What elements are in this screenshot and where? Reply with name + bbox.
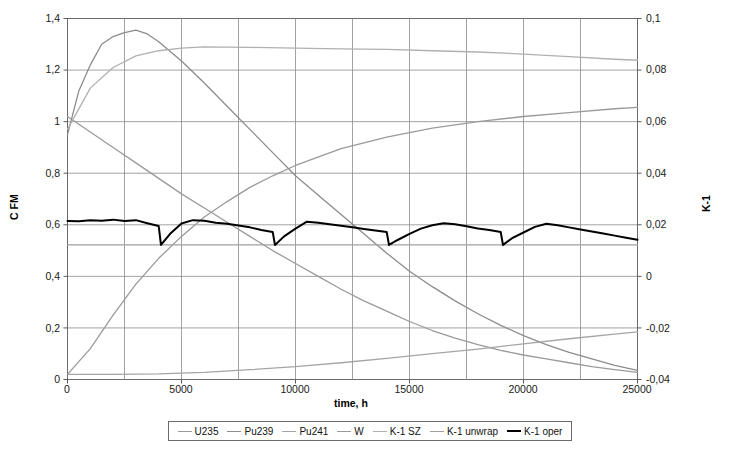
legend-label: U235 [195,426,219,437]
y-tick-label: 0,8 [20,167,60,179]
y2-tick-label: 0 [646,270,686,282]
y-tick-label: 0,6 [20,218,60,230]
y2-tick-label: 0,02 [646,218,686,230]
legend-label: K-1 unwrap [447,426,498,437]
y2-tick-label: 0,06 [646,115,686,127]
y-tick-label: 1,2 [20,63,60,75]
legend-swatch [282,431,296,432]
legend-item-k1-unwrap: K-1 unwrap [430,426,498,437]
legend-swatch [373,431,387,432]
legend-label: Pu239 [244,426,273,437]
grid-lines [68,19,638,380]
chart-legend: U235 Pu239 Pu241 W K-1 SZ K-1 unwrap K-1… [168,421,572,441]
y-tick-label: 1,4 [20,12,60,24]
legend-swatch [178,431,192,432]
y2-axis-title: K-1 [700,195,712,212]
legend-label: K-1 SZ [390,426,421,437]
legend-item-pu241: Pu241 [282,426,328,437]
legend-item-u235: U235 [178,426,219,437]
legend-swatch [430,431,444,432]
x-tick-label: 20000 [498,383,548,395]
legend-label: Pu241 [299,426,328,437]
legend-swatch [507,430,521,432]
x-tick-label: 10000 [270,383,320,395]
y2-tick-label: 0,08 [646,63,686,75]
legend-label: W [354,426,363,437]
y2-tick-label: -0,02 [646,322,686,334]
legend-swatch [337,431,351,432]
legend-item-w: W [337,426,363,437]
y2-tick-label: 0,04 [646,167,686,179]
legend-item-pu239: Pu239 [227,426,273,437]
y-axis-title: C FM [8,194,20,220]
x-tick-label: 15000 [384,383,434,395]
y2-tick-label: 0,1 [646,12,686,24]
y-tick-label: 0,2 [20,322,60,334]
x-tick-label: 25000 [612,383,662,395]
legend-swatch [227,431,241,432]
y-tick-label: 1 [20,115,60,127]
x-tick-label: 5000 [156,383,206,395]
x-tick-label: 0 [42,383,92,395]
legend-item-k1-oper: K-1 oper [507,426,562,437]
chart-container: 1,4 1,2 1 0,8 0,6 0,4 0,2 0 0,1 0,08 0,0… [0,0,736,458]
x-axis-title: time, h [334,397,368,409]
legend-item-k1-sz: K-1 SZ [373,426,421,437]
legend-label: K-1 oper [524,426,562,437]
y-tick-label: 0,4 [20,270,60,282]
